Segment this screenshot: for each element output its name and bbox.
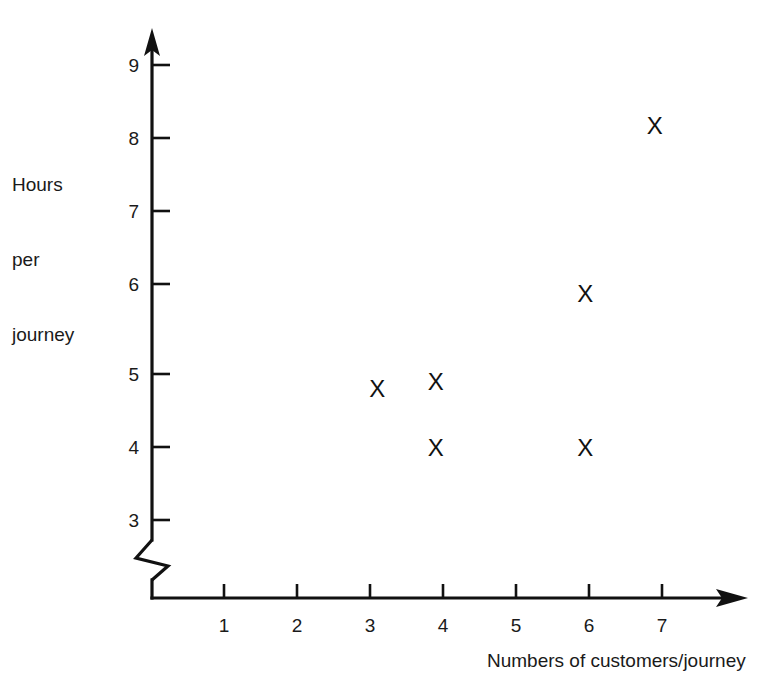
y-tick-label-8: 8 <box>128 128 139 149</box>
data-point-marker: X <box>369 375 385 402</box>
data-point-marker: X <box>577 434 593 461</box>
scatter-plot-canvas: 9 8 7 6 5 4 3 1 2 3 4 5 6 7 XXX <box>0 0 762 678</box>
data-point-marker: X <box>428 368 444 395</box>
data-point-group: XXXXXX <box>369 112 662 460</box>
x-tick-label-4: 4 <box>438 615 449 636</box>
y-tick-group <box>152 65 170 520</box>
y-axis-title-line-1: Hours <box>12 172 74 197</box>
chart-page: 9 8 7 6 5 4 3 1 2 3 4 5 6 7 XXX <box>0 0 762 678</box>
x-tick-label-5: 5 <box>511 615 522 636</box>
y-tick-label-6: 6 <box>128 274 139 295</box>
x-tick-label-1: 1 <box>219 615 230 636</box>
data-point-marker: X <box>428 434 444 461</box>
y-axis-break-zigzag <box>136 540 168 580</box>
y-tick-label-9: 9 <box>128 55 139 76</box>
y-axis-title-line-3: journey <box>12 322 74 347</box>
y-axis-title: Hours per journey <box>12 122 74 397</box>
y-tick-label-7: 7 <box>128 201 139 222</box>
x-tick-label-2: 2 <box>292 615 303 636</box>
data-point-marker: X <box>577 280 593 307</box>
x-axis-title: Numbers of customers/journey <box>487 648 746 673</box>
y-tick-label-5: 5 <box>128 364 139 385</box>
x-tick-group <box>224 584 662 598</box>
y-tick-label-3: 3 <box>128 510 139 531</box>
y-tick-label-4: 4 <box>128 437 139 458</box>
x-tick-label-6: 6 <box>584 615 595 636</box>
y-tick-label-group: 9 8 7 6 5 4 3 <box>128 55 139 531</box>
data-point-marker: X <box>647 112 663 139</box>
x-tick-label-group: 1 2 3 4 5 6 7 <box>219 615 668 636</box>
y-axis-title-line-2: per <box>12 247 74 272</box>
x-tick-label-7: 7 <box>657 615 668 636</box>
x-tick-label-3: 3 <box>365 615 376 636</box>
